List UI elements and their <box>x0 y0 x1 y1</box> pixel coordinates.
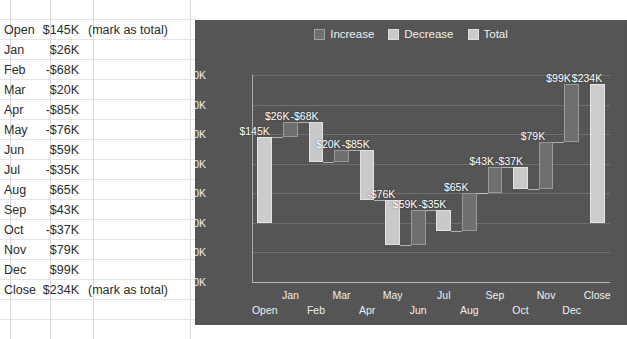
cell-category[interactable]: Jun <box>0 143 40 157</box>
table-row[interactable]: Jan$26K <box>0 40 196 60</box>
table-row[interactable]: Aug$65K <box>0 180 196 200</box>
y-tick-label: $150K <box>195 128 206 140</box>
table-row[interactable]: Sep$43K <box>0 200 196 220</box>
cell-amount[interactable]: $79K <box>40 243 83 257</box>
bar-data-label: $20K <box>316 138 341 150</box>
cell-category[interactable]: Aug <box>0 183 40 197</box>
bar-data-label: -$35K <box>418 198 446 210</box>
x-tick-label: Open <box>252 304 278 316</box>
cell-category[interactable]: Nov <box>0 243 40 257</box>
table-row[interactable]: Nov$79K <box>0 240 196 260</box>
cell-category[interactable]: May <box>0 123 40 137</box>
cell-category[interactable]: Jan <box>0 43 40 57</box>
y-axis-line <box>252 75 253 282</box>
waterfall-bar-jan[interactable] <box>283 122 298 137</box>
waterfall-connector <box>400 245 411 246</box>
table-row[interactable]: Jun$59K <box>0 140 196 160</box>
cell-note[interactable]: (mark as total) <box>83 283 168 297</box>
waterfall-bar-jun[interactable] <box>411 210 426 245</box>
cell-category[interactable]: Sep <box>0 203 40 217</box>
waterfall-connector <box>553 142 564 143</box>
table-row[interactable]: Dec$99K <box>0 260 196 280</box>
waterfall-bar-dec[interactable] <box>564 84 579 143</box>
x-tick-label: Close <box>584 289 611 301</box>
cell-category[interactable]: Jul <box>0 163 40 177</box>
table-row[interactable]: Apr-$85K <box>0 100 196 120</box>
chart-legend[interactable]: IncreaseDecreaseTotal <box>195 28 627 40</box>
table-row[interactable]: Close$234K(mark as total) <box>0 280 196 300</box>
waterfall-connector <box>528 189 539 190</box>
bar-data-label: $79K <box>521 130 546 142</box>
table-row[interactable]: Feb-$68K <box>0 60 196 80</box>
chart-plot-area: $145K$26K-$68K$20K-$85K-$76K$59K-$35K$65… <box>252 75 610 282</box>
table-row[interactable]: May-$76K <box>0 120 196 140</box>
waterfall-connector <box>349 150 360 151</box>
cell-category[interactable]: Oct <box>0 223 40 237</box>
waterfall-chart[interactable]: IncreaseDecreaseTotal $145K$26K-$68K$20K… <box>195 20 627 325</box>
cell-amount[interactable]: $65K <box>40 183 83 197</box>
cell-amount[interactable]: $59K <box>40 143 83 157</box>
grid-row-divider <box>0 319 196 320</box>
excel-waterfall-screenshot: Open$145K(mark as total)Jan$26KFeb-$68KM… <box>0 0 627 339</box>
waterfall-bar-oct[interactable] <box>513 167 528 189</box>
x-tick-label: Jan <box>282 289 299 301</box>
cell-amount[interactable]: -$85K <box>40 103 83 117</box>
cell-amount[interactable]: -$68K <box>40 63 83 77</box>
y-tick-label: $250K <box>195 69 206 81</box>
cell-category[interactable]: Apr <box>0 103 40 117</box>
cell-amount[interactable]: $99K <box>40 263 83 277</box>
legend-label: Decrease <box>404 28 453 40</box>
legend-swatch-icon <box>388 29 399 40</box>
waterfall-bar-jul[interactable] <box>436 210 451 231</box>
y-tick-label: $100K <box>195 158 206 170</box>
waterfall-bar-aug[interactable] <box>462 193 477 231</box>
cell-amount[interactable]: $145K <box>40 23 83 37</box>
cell-category[interactable]: Feb <box>0 63 40 77</box>
table-row[interactable]: Open$145K(mark as total) <box>0 20 196 40</box>
cell-category[interactable]: Mar <box>0 83 40 97</box>
cell-category[interactable]: Dec <box>0 263 40 277</box>
bar-data-label: -$37K <box>495 155 523 167</box>
y-gridline <box>252 134 610 135</box>
cell-category[interactable]: Close <box>0 283 40 297</box>
x-tick-label: Dec <box>562 304 581 316</box>
y-gridline <box>252 164 610 165</box>
cell-amount[interactable]: -$76K <box>40 123 83 137</box>
waterfall-bar-mar[interactable] <box>334 150 349 162</box>
waterfall-bar-nov[interactable] <box>539 142 554 189</box>
legend-item[interactable]: Total <box>468 28 508 40</box>
cell-amount[interactable]: $26K <box>40 43 83 57</box>
bar-data-label: $43K <box>470 155 495 167</box>
cell-note[interactable]: (mark as total) <box>83 23 168 37</box>
x-axis-line <box>252 282 610 283</box>
waterfall-connector <box>272 137 283 138</box>
waterfall-connector <box>426 210 437 211</box>
legend-label: Total <box>484 28 508 40</box>
table-row[interactable]: Oct-$37K <box>0 220 196 240</box>
table-row[interactable]: Jul-$35K <box>0 160 196 180</box>
x-tick-label: Feb <box>307 304 325 316</box>
cell-amount[interactable]: $43K <box>40 203 83 217</box>
waterfall-connector <box>323 162 334 163</box>
waterfall-bar-close[interactable] <box>590 84 605 222</box>
waterfall-bar-open[interactable] <box>257 137 272 223</box>
x-tick-label: Mar <box>332 289 350 301</box>
legend-item[interactable]: Decrease <box>388 28 453 40</box>
x-tick-label: Sep <box>486 289 505 301</box>
spreadsheet-pane[interactable]: Open$145K(mark as total)Jan$26KFeb-$68KM… <box>0 0 196 339</box>
cell-amount[interactable]: -$37K <box>40 223 83 237</box>
cell-amount[interactable]: $234K <box>40 283 83 297</box>
x-tick-label: Nov <box>537 289 556 301</box>
x-tick-label: Jun <box>410 304 427 316</box>
cell-category[interactable]: Open <box>0 23 40 37</box>
y-tick-label: -$100K <box>195 276 206 288</box>
cell-amount[interactable]: $20K <box>40 83 83 97</box>
waterfall-connector <box>477 193 488 194</box>
x-tick-label: Jul <box>437 289 450 301</box>
cell-amount[interactable]: -$35K <box>40 163 83 177</box>
legend-item[interactable]: Increase <box>314 28 374 40</box>
waterfall-bar-sep[interactable] <box>488 167 503 192</box>
bar-data-label: $145K <box>239 125 269 137</box>
waterfall-connector <box>502 167 513 168</box>
table-row[interactable]: Mar$20K <box>0 80 196 100</box>
